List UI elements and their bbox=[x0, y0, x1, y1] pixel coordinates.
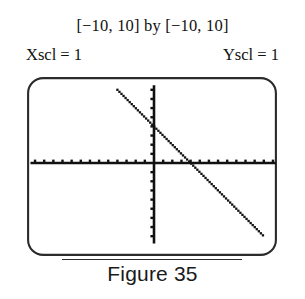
scale-label-row: Xscl = 1 Yscl = 1 bbox=[26, 45, 279, 65]
plot-point bbox=[131, 103, 133, 105]
plot-point bbox=[202, 175, 204, 177]
plot-point bbox=[235, 208, 237, 210]
plot-point bbox=[139, 111, 141, 113]
plot-point bbox=[239, 212, 241, 214]
figure-caption: Figure 35 bbox=[0, 262, 305, 286]
plot-point bbox=[221, 193, 223, 195]
plot-point bbox=[137, 109, 139, 111]
plot-point bbox=[206, 179, 208, 181]
yscl-label: Yscl = 1 bbox=[223, 45, 279, 65]
plot-point bbox=[188, 160, 190, 162]
plot-point bbox=[133, 105, 135, 107]
plot-point bbox=[215, 187, 217, 189]
plot-point bbox=[165, 138, 167, 140]
plot-point bbox=[118, 91, 120, 93]
plot-point bbox=[153, 126, 155, 128]
plot-point bbox=[141, 113, 143, 115]
plot-point bbox=[233, 206, 235, 208]
plot-point bbox=[135, 107, 137, 109]
caption-divider bbox=[62, 259, 242, 260]
plot-point bbox=[192, 165, 194, 167]
plot-point bbox=[211, 183, 213, 185]
plot-point bbox=[245, 218, 247, 220]
plot-point bbox=[262, 234, 264, 236]
plot-point bbox=[143, 115, 145, 117]
plot-point bbox=[200, 173, 202, 175]
plot-point bbox=[194, 167, 196, 169]
plot-point bbox=[161, 134, 163, 136]
plot-point bbox=[186, 158, 188, 160]
plot-point bbox=[243, 216, 245, 218]
plot-point bbox=[145, 117, 147, 119]
plot-point bbox=[252, 224, 254, 226]
graph-canvas bbox=[27, 77, 277, 256]
plot-point bbox=[190, 162, 192, 164]
plot-point bbox=[225, 197, 227, 199]
plot-point bbox=[258, 230, 260, 232]
plot-point bbox=[250, 222, 252, 224]
plot-point bbox=[237, 210, 239, 212]
plot-point bbox=[231, 203, 233, 205]
plot-point bbox=[256, 228, 258, 230]
plot-point bbox=[219, 191, 221, 193]
plot-point bbox=[168, 140, 170, 142]
plot-point bbox=[124, 97, 126, 99]
plot-point bbox=[174, 146, 176, 148]
plot-point bbox=[170, 142, 172, 144]
plot-point bbox=[178, 150, 180, 152]
plot-point bbox=[223, 195, 225, 197]
xscl-label: Xscl = 1 bbox=[26, 45, 82, 65]
plot-point bbox=[147, 119, 149, 121]
plot-point bbox=[122, 95, 124, 97]
viewing-window-label: [−10, 10] by [−10, 10] bbox=[0, 16, 305, 36]
plot-point bbox=[120, 93, 122, 95]
plot-point bbox=[116, 89, 118, 91]
plot-point bbox=[157, 130, 159, 132]
plot-point bbox=[127, 99, 129, 101]
plot-point bbox=[159, 132, 161, 134]
plot-point bbox=[198, 171, 200, 173]
plot-point bbox=[204, 177, 206, 179]
screen-bezel bbox=[28, 78, 276, 255]
plot-point bbox=[155, 128, 157, 130]
plot-point bbox=[163, 136, 165, 138]
plot-point bbox=[180, 152, 182, 154]
plot-point bbox=[229, 201, 231, 203]
plot-point bbox=[227, 199, 229, 201]
plot-point bbox=[254, 226, 256, 228]
plot-point bbox=[172, 144, 174, 146]
plot-point bbox=[217, 189, 219, 191]
plot-point bbox=[209, 181, 211, 183]
plot-point bbox=[241, 214, 243, 216]
plot-point bbox=[213, 185, 215, 187]
plot-point bbox=[260, 232, 262, 234]
plot-point bbox=[182, 154, 184, 156]
plot-point bbox=[247, 220, 249, 222]
calculator-screen bbox=[27, 77, 277, 256]
plot-point bbox=[176, 148, 178, 150]
plot-point bbox=[151, 124, 153, 126]
plot-point bbox=[184, 156, 186, 158]
plot-point bbox=[196, 169, 198, 171]
plot-point bbox=[149, 121, 151, 123]
plot-point bbox=[129, 101, 131, 103]
figure-container: [−10, 10] by [−10, 10] Xscl = 1 Yscl = 1… bbox=[0, 0, 305, 299]
